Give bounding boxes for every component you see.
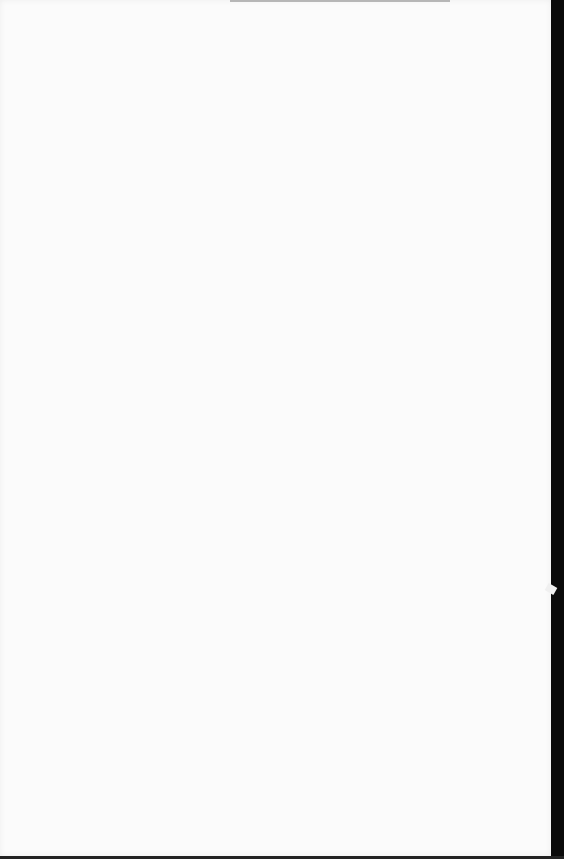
scan-shadow (230, 0, 450, 2)
blank-page (0, 0, 551, 856)
scan-edge-right (551, 0, 564, 859)
